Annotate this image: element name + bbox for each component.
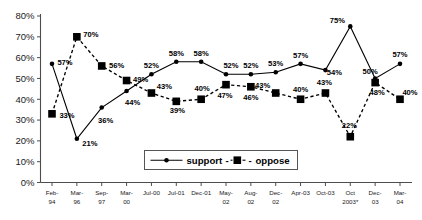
svg-text:Aug-: Aug- [244,189,257,196]
data-point-support [224,72,229,77]
data-point-oppose [297,95,305,103]
y-axis-tick-label: 30% [15,114,35,125]
x-axis-tick-label: Feb-94 [46,189,59,205]
data-point-oppose [123,77,131,85]
data-label-support: 54% [327,68,342,77]
line-chart: 80%70%60%50%40%30%20%10%0% Feb-94Mar-96S… [0,0,422,220]
data-label-support: 57% [57,58,72,67]
x-axis-tick-label: Dec-01 [191,189,212,196]
data-point-oppose [371,79,379,87]
data-label-oppose: 40% [402,88,417,97]
data-point-support [174,59,179,64]
svg-text:Jul-01: Jul-01 [168,189,185,196]
data-point-support [249,72,254,77]
x-axis-tick-label: Dec-02 [269,189,282,205]
svg-text:Mar-: Mar- [394,189,407,196]
svg-text:Jul-00: Jul-00 [143,189,160,196]
x-axis-tick-label: Jul-00 [143,189,160,196]
x-axis-tick-label: Dec-03 [369,189,382,205]
svg-text:02: 02 [223,198,230,205]
data-label-support: 52% [144,61,159,70]
chart-legend[interactable]: support--oppose [145,151,298,170]
data-point-support [99,105,104,110]
data-label-oppose: 43% [255,81,270,90]
data-point-support [298,62,303,67]
x-axis-tick-label: Jul-01 [168,189,185,196]
svg-text:2003*: 2003* [342,198,359,205]
data-label-support: 53% [268,59,283,68]
svg-text:Sep-: Sep- [95,189,108,196]
data-point-support [50,62,55,67]
data-label-support: 52% [223,61,238,70]
data-label-support: 21% [82,139,97,148]
data-point-support [75,136,80,141]
y-axis-tick-label: 80% [15,10,35,21]
data-point-support [149,72,154,77]
data-point-oppose [148,89,156,97]
svg-text:Oct: Oct [345,189,355,196]
svg-text:Feb-: Feb- [46,189,59,196]
data-point-oppose [247,83,255,91]
data-label-support: 58% [169,49,184,58]
y-axis-tick-label: 70% [15,31,35,42]
y-axis-tick-label: 40% [15,94,35,105]
data-point-support [273,70,278,75]
x-axis-tick-label: Mar-04 [394,189,407,205]
data-point-oppose [322,89,330,97]
data-labels-group: 57%21%36%44%52%58%58%52%52%53%57%54%75%5… [57,16,417,147]
svg-text:Dec-: Dec- [269,189,282,196]
data-label-oppose: 40% [195,84,210,93]
y-axis-tick-label: 60% [15,52,35,63]
data-label-support: 36% [98,116,113,125]
y-axis-tick-label: 20% [15,135,35,146]
data-label-support: 57% [392,50,407,59]
data-label-oppose: 48% [370,88,385,97]
y-axis-tick-label: 0% [21,177,35,188]
x-axis-tick-label: Sep-97 [95,189,108,205]
data-point-oppose [73,33,81,41]
data-label-oppose: 46% [243,93,258,102]
legend-separator-right: - [249,155,252,166]
x-axis-tick-label: Apr-03 [291,189,310,196]
svg-text:Mar-: Mar- [70,189,83,196]
data-point-oppose [222,81,230,89]
chart-container: 80%70%60%50%40%30%20%10%0% Feb-94Mar-96S… [0,0,422,220]
legend-separator-left: - [226,155,229,166]
data-label-support: 44% [125,98,140,107]
svg-text:04: 04 [397,198,404,205]
data-label-oppose: 40% [293,85,308,94]
x-axis-tick-label: Mar-00 [120,189,133,205]
data-label-oppose: 47% [217,91,232,100]
svg-text:02: 02 [272,198,279,205]
data-point-oppose [172,98,180,106]
svg-text:02: 02 [247,198,254,205]
legend-support-marker [164,158,169,163]
data-label-oppose: 70% [83,30,98,39]
data-point-oppose [48,110,56,118]
data-label-support: 52% [243,61,258,70]
data-label-oppose: 43% [157,82,172,91]
svg-text:00: 00 [123,198,130,205]
svg-text:96: 96 [73,198,80,205]
data-label-support: 58% [194,49,209,58]
y-axis-tick-label: 10% [15,156,35,167]
data-label-support: 50% [363,67,378,76]
data-point-oppose [197,95,205,103]
data-label-oppose: 43% [317,78,332,87]
svg-text:Oct-03: Oct-03 [316,189,335,196]
data-point-support [124,89,129,94]
svg-text:Apr-03: Apr-03 [291,189,310,196]
y-axis-tick-label: 50% [15,73,35,84]
x-axis: Feb-94Mar-96Sep-97Mar-00Jul-00Jul-01Dec-… [41,183,413,205]
data-label-oppose: 39% [170,106,185,115]
data-point-support [398,62,403,67]
data-label-support: 57% [293,51,308,60]
data-label-oppose: 33% [59,111,74,120]
svg-text:May-: May- [219,189,233,196]
svg-text:Dec-: Dec- [369,189,382,196]
x-axis-tick-label: Oct-03 [316,189,335,196]
legend-oppose-marker [234,156,242,164]
data-point-oppose [272,89,280,97]
svg-text:97: 97 [98,198,105,205]
svg-text:Mar-: Mar- [120,189,133,196]
